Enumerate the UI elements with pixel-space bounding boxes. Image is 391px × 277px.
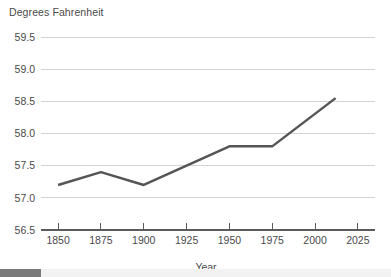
x-axis-tick-marks <box>58 223 358 230</box>
scrollbar-thumb[interactable] <box>0 269 41 277</box>
y-axis-tick-label: 58.0 <box>15 127 36 139</box>
horizontal-scrollbar[interactable] <box>0 269 391 277</box>
y-axis-tick-label: 56.5 <box>15 224 36 236</box>
x-axis-tick-label: 1950 <box>218 234 242 246</box>
line-chart-plot: 56.557.057.558.058.559.059.5 18501875190… <box>0 0 391 277</box>
x-axis-tick-label: 1975 <box>261 234 285 246</box>
x-axis-tick-label: 1900 <box>132 234 156 246</box>
chart-container: Degrees Fahrenheit 56.557.057.558.058.55… <box>0 0 391 277</box>
x-axis-tick-label: 1875 <box>89 234 113 246</box>
y-axis-tick-label: 58.5 <box>15 95 36 107</box>
x-axis-tick-label: 2025 <box>346 234 370 246</box>
y-axis-tick-label: 57.0 <box>15 192 36 204</box>
x-axis-tick-label: 1925 <box>175 234 199 246</box>
x-axis-tick-label: 2000 <box>303 234 327 246</box>
y-axis-tick-label: 59.5 <box>15 31 36 43</box>
x-axis-tick-labels: 18501875190019251950197520002025 <box>46 234 369 246</box>
x-axis-tick-label: 1850 <box>46 234 70 246</box>
y-axis-tick-label: 59.0 <box>15 63 36 75</box>
y-axis-tick-label: 57.5 <box>15 159 36 171</box>
gridlines-group <box>41 37 375 198</box>
y-axis-tick-labels: 56.557.057.558.058.559.059.5 <box>15 31 36 236</box>
temperature-data-line <box>58 98 335 185</box>
